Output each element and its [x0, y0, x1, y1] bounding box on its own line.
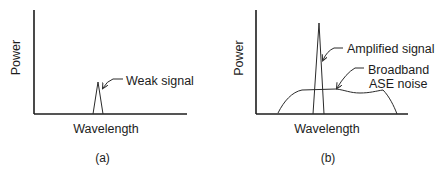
weak-signal-arrow: [103, 79, 123, 88]
caption-b: (b): [321, 151, 336, 165]
weak-signal-peak: [93, 82, 103, 114]
panel-b: Amplified signal Broadband ASE noise Pow…: [232, 10, 435, 165]
ase-noise-label: ASE noise: [369, 77, 427, 91]
ase-noise-curve: [278, 89, 397, 114]
y-axis-label-b: Power: [232, 40, 246, 75]
caption-a: (a): [95, 151, 110, 165]
amplified-signal-label: Amplified signal: [347, 42, 435, 56]
amplified-signal-arrow: [323, 48, 343, 60]
figure: Weak signal Power Wavelength (a) Amplifi…: [0, 0, 443, 178]
broadband-label: Broadband: [368, 63, 429, 77]
panel-a: Weak signal Power Wavelength (a): [9, 10, 194, 165]
y-axis-label-a: Power: [9, 40, 23, 75]
amplified-signal-peak: [313, 23, 324, 114]
x-axis-label-a: Wavelength: [73, 122, 139, 136]
x-axis-label-b: Wavelength: [294, 122, 360, 136]
weak-signal-label: Weak signal: [126, 74, 194, 88]
ase-noise-arrow: [337, 68, 364, 88]
